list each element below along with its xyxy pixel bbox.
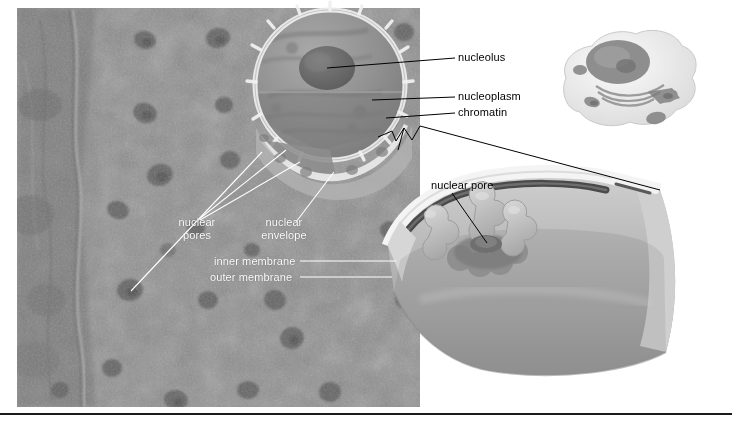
label-nuclear-pores-line2: pores bbox=[160, 229, 234, 241]
label-outer-membrane: outer membrane bbox=[210, 271, 292, 283]
label-nuclear-envelope-line1: nuclear bbox=[243, 216, 325, 228]
bottom-divider bbox=[0, 413, 732, 415]
figure-artwork bbox=[0, 0, 732, 423]
label-nuclear-envelope-line2: envelope bbox=[243, 229, 325, 241]
label-nuclear-pore: nuclear pore bbox=[431, 179, 493, 191]
cell-inset-illustration bbox=[564, 30, 696, 125]
label-inner-membrane: inner membrane bbox=[214, 255, 296, 267]
label-nuclear-pores-line1: nuclear bbox=[160, 216, 234, 228]
label-nucleoplasm: nucleoplasm bbox=[458, 90, 521, 102]
label-chromatin: chromatin bbox=[458, 106, 507, 118]
nuclear-envelope-figure: nucleolus nucleoplasm chromatin nuclear … bbox=[0, 0, 732, 423]
envelope-cutaway-illustration bbox=[388, 172, 675, 376]
label-nucleolus: nucleolus bbox=[458, 51, 505, 63]
